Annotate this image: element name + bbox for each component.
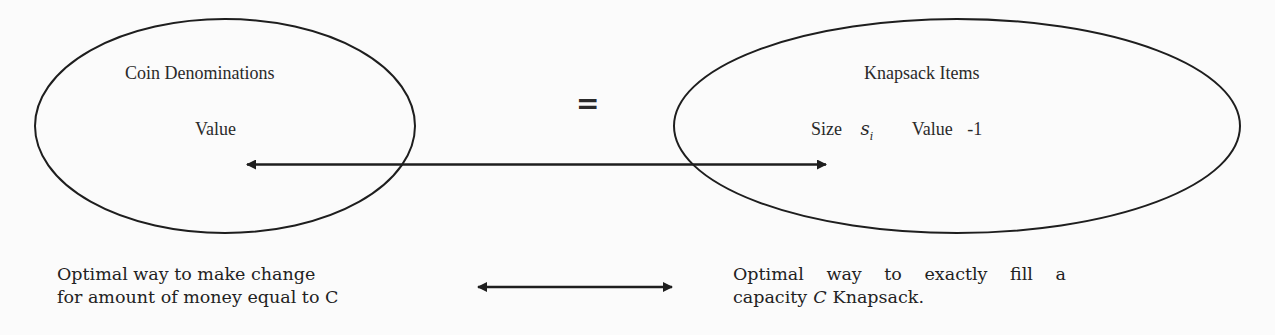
value-amount: -1: [967, 119, 982, 139]
caption-word: way: [826, 263, 861, 286]
caption-line: Optimal way to make change: [57, 263, 338, 286]
knapsack-fill-caption: Optimal way to exactly fill a capacity C…: [733, 263, 1066, 309]
caption-line: capacity C Knapsack.: [733, 286, 1066, 309]
caption-word: a: [1056, 263, 1066, 286]
caption-word: exactly: [924, 263, 987, 286]
capacity-symbol: C: [813, 286, 826, 309]
knapsack-items-title: Knapsack Items: [864, 64, 979, 82]
change-making-caption: Optimal way to make change for amount of…: [57, 263, 338, 309]
size-symbol: si: [861, 118, 874, 139]
knapsack-size-value-row: Size si Value -1: [811, 120, 982, 142]
caption-word: Optimal: [733, 263, 804, 286]
caption-word: Knapsack.: [833, 286, 924, 309]
caption-word: to: [884, 263, 902, 286]
caption-word: fill: [1010, 263, 1033, 286]
caption-line: for amount of money equal to C: [57, 286, 338, 309]
coin-value-label: Value: [195, 120, 236, 138]
size-label: Size: [811, 119, 842, 139]
value-label: Value: [912, 119, 953, 139]
caption-line: Optimal way to exactly fill a: [733, 263, 1066, 286]
equivalence-symbol: =: [576, 90, 599, 118]
coin-denominations-title: Coin Denominations: [125, 64, 275, 82]
caption-word: capacity: [733, 286, 807, 309]
